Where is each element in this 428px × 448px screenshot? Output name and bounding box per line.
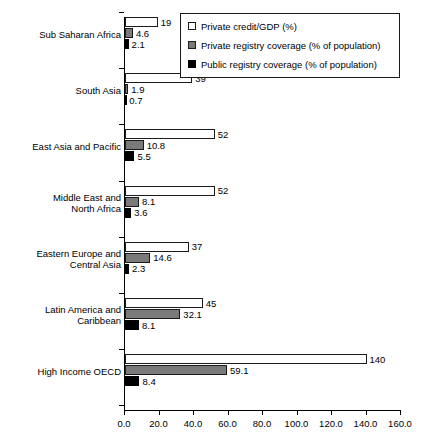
bar-2 [125, 320, 139, 330]
bar-2 [125, 376, 139, 386]
bar-1 [125, 365, 227, 375]
bar-2 [125, 264, 129, 274]
legend-item-label: Private credit/GDP (%) [201, 21, 297, 32]
bar-value-label: 19 [161, 17, 172, 28]
bar-group: East Asia and Pacific5210.85.5 [0, 129, 428, 185]
x-axis-tick-label: 0.0 [117, 418, 130, 429]
bar-value-label: 45 [206, 298, 217, 309]
bar-value-label: 52 [218, 129, 229, 140]
x-axis-tick-label: 100.0 [285, 418, 309, 429]
bar-value-label: 37 [192, 241, 203, 252]
x-axis-tick-label: 60.0 [218, 418, 237, 429]
x-axis-tick [124, 410, 125, 415]
bar-value-label: 8.1 [142, 320, 155, 331]
category-label: East Asia and Pacific [0, 141, 121, 152]
category-label: High Income OECD [0, 366, 121, 377]
bar-2 [125, 39, 129, 49]
legend-item[interactable]: Private credit/GDP (%) [188, 19, 297, 33]
legend-item-label: Private registry coverage (% of populati… [201, 40, 381, 51]
bar-value-label: 1.9 [131, 84, 144, 95]
x-axis-tick [331, 410, 332, 415]
category-label: Middle East and North Africa [0, 192, 121, 214]
x-axis-tick-label: 80.0 [253, 418, 272, 429]
bar-0 [125, 242, 189, 252]
bar-value-label: 8.1 [142, 196, 155, 207]
bar-value-label: 3.6 [134, 207, 147, 218]
bar-0 [125, 354, 367, 364]
bar-chart: 0.020.040.060.080.0100.0120.0140.0160.0 … [0, 0, 428, 448]
x-axis-tick [297, 410, 298, 415]
bar-group: South Asia391.90.7 [0, 73, 428, 129]
x-axis-tick-label: 120.0 [319, 418, 343, 429]
bar-1 [125, 309, 180, 319]
category-label: South Asia [0, 85, 121, 96]
bar-group: Middle East and North Africa528.13.6 [0, 186, 428, 242]
bar-group: High Income OECD14059.18.4 [0, 354, 428, 410]
bar-value-label: 59.1 [230, 365, 249, 376]
plot-area: 0.020.040.060.080.0100.0120.0140.0160.0 … [0, 0, 428, 448]
chart-legend: Private credit/GDP (%)Private registry c… [180, 13, 400, 78]
bar-value-label: 8.4 [142, 376, 155, 387]
x-axis-tick [366, 410, 367, 415]
bar-1 [125, 253, 150, 263]
bar-value-label: 10.8 [147, 140, 166, 151]
bar-1 [125, 140, 144, 150]
bar-2 [125, 151, 134, 161]
category-label: Eastern Europe and Central Asia [0, 248, 121, 270]
legend-item[interactable]: Private registry coverage (% of populati… [188, 38, 381, 52]
x-axis-tick [262, 410, 263, 415]
x-axis-tick-label: 140.0 [354, 418, 378, 429]
bar-1 [125, 28, 133, 38]
x-axis-tick [159, 410, 160, 415]
bar-value-label: 32.1 [183, 309, 202, 320]
legend-item[interactable]: Public registry coverage (% of populatio… [188, 57, 377, 71]
bar-value-label: 2.3 [132, 263, 145, 274]
x-axis-tick [400, 410, 401, 415]
x-axis-tick [193, 410, 194, 415]
bar-2 [125, 208, 131, 218]
y-axis-tick [119, 12, 124, 13]
bar-value-label: 4.6 [136, 28, 149, 39]
bar-value-label: 140 [370, 354, 386, 365]
bar-0 [125, 129, 215, 139]
bar-group: Eastern Europe and Central Asia3714.62.3 [0, 242, 428, 298]
gray-square-icon [188, 41, 196, 49]
bar-value-label: 14.6 [153, 252, 172, 263]
x-axis-tick-label: 160.0 [388, 418, 412, 429]
category-label: Sub Saharan Africa [0, 29, 121, 40]
bar-0 [125, 298, 203, 308]
bar-1 [125, 84, 128, 94]
bar-0 [125, 17, 158, 27]
bar-value-label: 2.1 [132, 39, 145, 50]
bar-1 [125, 197, 139, 207]
legend-item-label: Public registry coverage (% of populatio… [201, 59, 377, 70]
bar-value-label: 52 [218, 185, 229, 196]
bar-0 [125, 186, 215, 196]
bar-group: Latin America and Caribbean4532.18.1 [0, 298, 428, 354]
bar-value-label: 0.7 [129, 95, 142, 106]
white-square-icon [188, 22, 196, 30]
bar-value-label: 5.5 [137, 151, 150, 162]
x-axis-tick [228, 410, 229, 415]
x-axis-tick-label: 20.0 [149, 418, 168, 429]
bar-2 [125, 95, 127, 105]
category-label: Latin America and Caribbean [0, 304, 121, 326]
black-square-icon [188, 60, 196, 68]
x-axis-tick-label: 40.0 [184, 418, 203, 429]
